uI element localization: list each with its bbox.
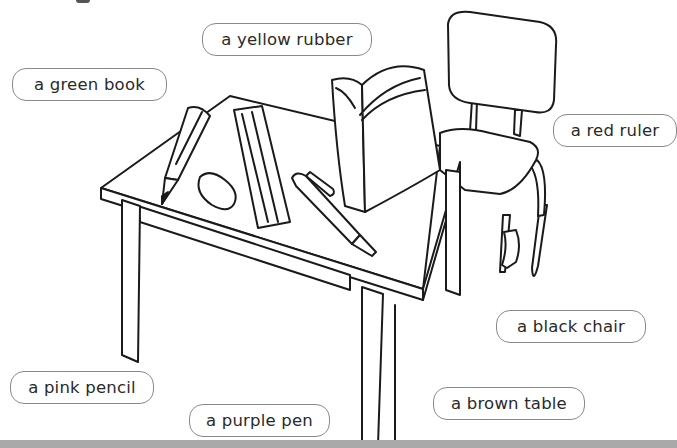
label-yellow-rubber[interactable]: a yellow rubber xyxy=(202,23,372,56)
label-purple-pen[interactable]: a purple pen xyxy=(189,404,330,437)
label-red-ruler[interactable]: a red ruler xyxy=(553,114,677,147)
label-green-book[interactable]: a green book xyxy=(12,68,167,101)
label-pink-pencil[interactable]: a pink pencil xyxy=(10,371,154,404)
page-bottom-border xyxy=(0,440,677,448)
label-brown-table[interactable]: a brown table xyxy=(433,387,585,420)
label-black-chair[interactable]: a black chair xyxy=(496,310,646,343)
